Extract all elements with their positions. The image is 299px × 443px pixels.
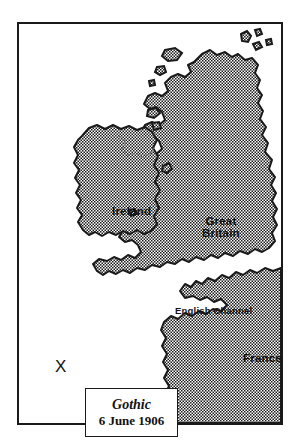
island-outer-hebrides-north [162, 48, 182, 61]
ireland-outline [74, 125, 160, 236]
island-shetland-b [255, 29, 262, 36]
map-figure: Ireland Great Britain English Channel Fr… [0, 0, 299, 443]
caption-ship-name: Gothic [112, 397, 151, 412]
island-orkney-a [253, 42, 262, 50]
map-label-english-channel: English Channel [175, 306, 252, 316]
caption-box: Gothic 6 June 1906 [85, 388, 178, 437]
caption-date: 6 June 1906 [99, 414, 165, 428]
map-frame: Ireland Great Britain English Channel Fr… [17, 22, 283, 425]
island-shetland-a [241, 31, 251, 42]
island-inner-hebrides-a [147, 108, 160, 118]
map-label-great-britain-line2: Britain [202, 228, 240, 240]
island-hebrides-small [149, 80, 155, 86]
island-orkney-b [266, 39, 272, 45]
island-inner-hebrides-b [152, 122, 161, 130]
france-outline [161, 268, 281, 423]
landmass-france [161, 268, 281, 423]
landmass-ireland [74, 125, 160, 236]
map-label-france: France [243, 353, 282, 365]
position-marker-x: X [55, 358, 66, 375]
island-outer-hebrides-south [155, 66, 166, 75]
map-label-great-britain: Great Britain [202, 216, 240, 239]
map-label-ireland: Ireland [112, 206, 151, 218]
map-label-great-britain-line1: Great [202, 216, 240, 228]
